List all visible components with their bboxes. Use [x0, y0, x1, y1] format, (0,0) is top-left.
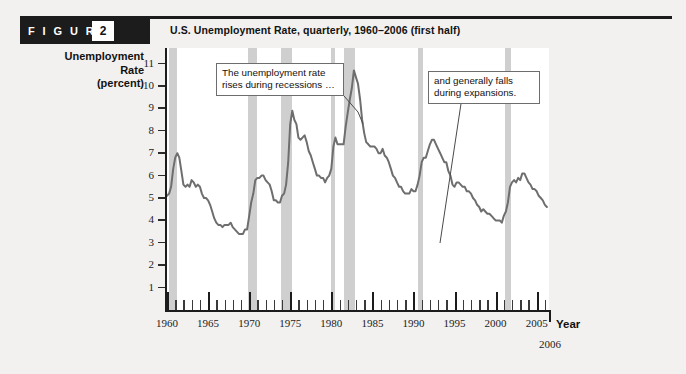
y-axis-spine	[165, 48, 167, 312]
x-axis-tick-minor	[487, 300, 488, 310]
y-axis-tick-label: 9	[132, 101, 154, 113]
x-axis-tick-major	[290, 292, 292, 310]
x-axis-tick-minor	[364, 300, 365, 310]
y-axis-tick	[158, 107, 165, 109]
x-axis-tick-minor	[405, 300, 406, 310]
x-axis-tick-minor	[397, 300, 398, 310]
x-axis-tick-minor	[200, 300, 201, 310]
x-axis-tick-minor	[241, 300, 242, 310]
y-axis-tick-label: 6	[132, 169, 154, 181]
x-axis-tick-label: 1970	[229, 317, 269, 329]
x-axis-tick-major	[331, 292, 333, 310]
y-axis-tick	[158, 287, 165, 289]
x-axis-tick-minor	[183, 300, 184, 310]
x-axis-tick-major	[537, 292, 539, 310]
y-axis-tick-label: 3	[132, 236, 154, 248]
annotation-callout-recessions: The unemployment rate rises during reces…	[216, 63, 344, 96]
x-axis-tick-label: 1980	[311, 317, 351, 329]
y-axis-tick-label: 7	[132, 146, 154, 158]
y-axis-tick	[158, 242, 165, 244]
y-axis-tick	[158, 264, 165, 266]
x-axis-spine	[165, 310, 551, 312]
y-axis-title: Unemployment Rate (percent)	[36, 50, 144, 91]
x-axis-tick-minor	[422, 300, 423, 310]
y-axis-tick	[158, 197, 165, 199]
x-axis-tick-label: 1990	[393, 317, 433, 329]
x-axis-tick-label: 2000	[476, 317, 516, 329]
x-axis-tick-label: 1975	[270, 317, 310, 329]
figure-container: F I G U R E 2 U.S. Unemployment Rate, qu…	[0, 0, 686, 374]
x-axis-tick-minor	[545, 300, 546, 310]
x-axis-tick-minor	[225, 300, 226, 310]
x-axis-tick-minor	[282, 300, 283, 310]
x-axis-tick-major	[249, 292, 251, 310]
x-axis-tick-minor	[274, 300, 275, 310]
y-axis-tick-label: 4	[132, 213, 154, 225]
x-axis-tick-minor	[257, 300, 258, 310]
x-axis-tick-major	[413, 292, 415, 310]
x-axis-tick-label: 1960	[147, 317, 187, 329]
figure-tab: F I G U R E	[20, 18, 150, 44]
x-axis-tick-minor	[504, 300, 505, 310]
y-axis-tick	[158, 175, 165, 177]
x-axis-tick-minor	[463, 300, 464, 310]
x-axis-tick-minor	[438, 300, 439, 310]
x-axis-tick-major	[167, 292, 169, 310]
y-axis-tick-label: 5	[132, 191, 154, 203]
x-axis-tick-major	[455, 292, 457, 310]
x-axis-tick-minor	[192, 300, 193, 310]
y-axis-tick	[158, 130, 165, 132]
x-axis-tick-minor	[520, 300, 521, 310]
figure-title: U.S. Unemployment Rate, quarterly, 1960–…	[170, 24, 460, 36]
y-axis-tick-label: 10	[132, 79, 154, 91]
y-axis-tick-label: 1	[132, 281, 154, 293]
x-axis-tick-major	[496, 292, 498, 310]
x-axis-tick-label: 2005	[517, 317, 557, 329]
x-axis-tick-minor	[307, 300, 308, 310]
x-axis-tick-minor	[356, 300, 357, 310]
x-axis-tick-minor	[381, 300, 382, 310]
y-axis-tick-label: 2	[132, 258, 154, 270]
x-axis-tick-minor	[233, 300, 234, 310]
y-axis-tick	[158, 152, 165, 154]
x-axis-tick-minor	[298, 300, 299, 310]
x-axis-tick-label: 1995	[435, 317, 475, 329]
x-axis-title: Year	[556, 318, 580, 330]
x-axis-tick-minor	[389, 300, 390, 310]
x-axis-tick-major	[372, 292, 374, 310]
x-axis-tick-minor	[266, 300, 267, 310]
x-axis-tick-minor	[430, 300, 431, 310]
y-axis-tick-label: 11	[132, 57, 154, 69]
annotation-callout-expansions: and generally falls during expansions.	[428, 71, 540, 104]
x-axis-tick-minor	[175, 300, 176, 310]
x-axis-tick-minor	[216, 300, 217, 310]
x-axis-tick-minor	[471, 300, 472, 310]
y-axis-tick	[158, 63, 165, 65]
x-axis-tick-minor	[479, 300, 480, 310]
x-axis-tick-major	[208, 292, 210, 310]
x-axis-tick-minor	[512, 300, 513, 310]
figure-header: F I G U R E 2 U.S. Unemployment Rate, qu…	[0, 8, 686, 38]
figure-number-badge: 2	[92, 21, 114, 41]
y-axis-tick-label: 8	[132, 124, 154, 136]
x-axis-tick-minor	[323, 300, 324, 310]
x-axis-tick-minor	[446, 300, 447, 310]
x-axis-tick-label: 1985	[352, 317, 392, 329]
x-axis-tick-minor	[315, 300, 316, 310]
y-axis-tick	[158, 85, 165, 87]
x-axis-tick-minor	[340, 300, 341, 310]
x-axis-tick-minor	[528, 300, 529, 310]
y-axis-tick	[158, 219, 165, 221]
x-axis-tick-minor	[348, 300, 349, 310]
x-axis-end-label: 2006	[530, 338, 570, 350]
x-axis-tick-label: 1965	[188, 317, 228, 329]
